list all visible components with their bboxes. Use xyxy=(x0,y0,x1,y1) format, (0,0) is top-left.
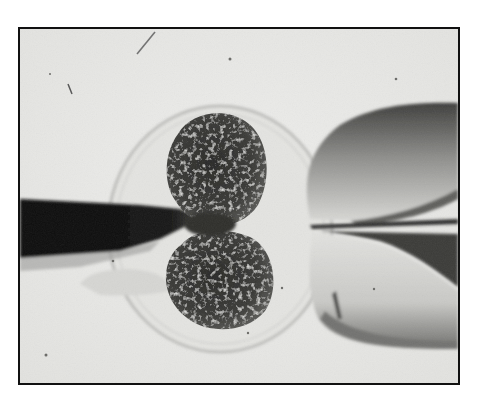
image-description: Grayscale micrograph of a two-cell embry… xyxy=(0,0,1,1)
micrograph-frame xyxy=(18,27,460,385)
film-grain xyxy=(20,29,458,383)
micrograph-image xyxy=(20,29,458,383)
micrograph-canvas: Grayscale micrograph of a two-cell embry… xyxy=(0,0,477,406)
